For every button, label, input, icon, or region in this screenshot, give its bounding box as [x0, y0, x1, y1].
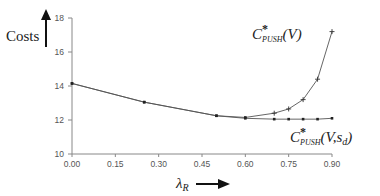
data-point — [302, 118, 305, 121]
x-ticks: 0.000.150.300.450.600.750.90 — [64, 154, 341, 169]
y-tick-label: 16 — [55, 47, 65, 57]
series-label-push-v: C*PUSH(V) — [252, 22, 302, 44]
y-axis-label: Costs — [6, 28, 40, 44]
x-tick-label: 0.15 — [107, 159, 124, 169]
series-line-0 — [72, 32, 332, 118]
data-point — [316, 118, 319, 121]
data-point — [331, 117, 334, 120]
data-point — [273, 118, 276, 121]
x-axis-label: λR — [175, 175, 189, 193]
data-point — [287, 118, 290, 121]
y-axis-arrow-icon — [41, 9, 51, 47]
data-point — [71, 82, 74, 85]
data-point — [330, 29, 335, 34]
data-point — [143, 101, 146, 104]
x-tick-label: 0.45 — [194, 159, 211, 169]
data-point — [286, 106, 291, 111]
y-tick-label: 14 — [55, 81, 65, 91]
y-tick-label: 18 — [55, 13, 65, 23]
x-tick-label: 0.90 — [324, 159, 341, 169]
data-point — [215, 114, 218, 117]
y-tick-label: 10 — [55, 149, 65, 159]
cost-chart: Costs 1012141618 0.000.150.300.450.600.7… — [0, 0, 380, 196]
x-axis-arrow-icon — [196, 179, 230, 189]
series-label-push-v-sd: C*PUSH(V,sd) — [290, 125, 352, 147]
x-tick-label: 0.75 — [280, 159, 297, 169]
y-ticks: 1012141618 — [55, 13, 72, 159]
x-tick-label: 0.00 — [64, 159, 81, 169]
series-layer — [71, 29, 335, 120]
x-tick-label: 0.60 — [237, 159, 254, 169]
data-point — [244, 117, 247, 120]
y-tick-label: 12 — [55, 115, 65, 125]
series-line-1 — [72, 83, 332, 119]
data-point — [272, 111, 277, 116]
x-tick-label: 0.30 — [150, 159, 167, 169]
